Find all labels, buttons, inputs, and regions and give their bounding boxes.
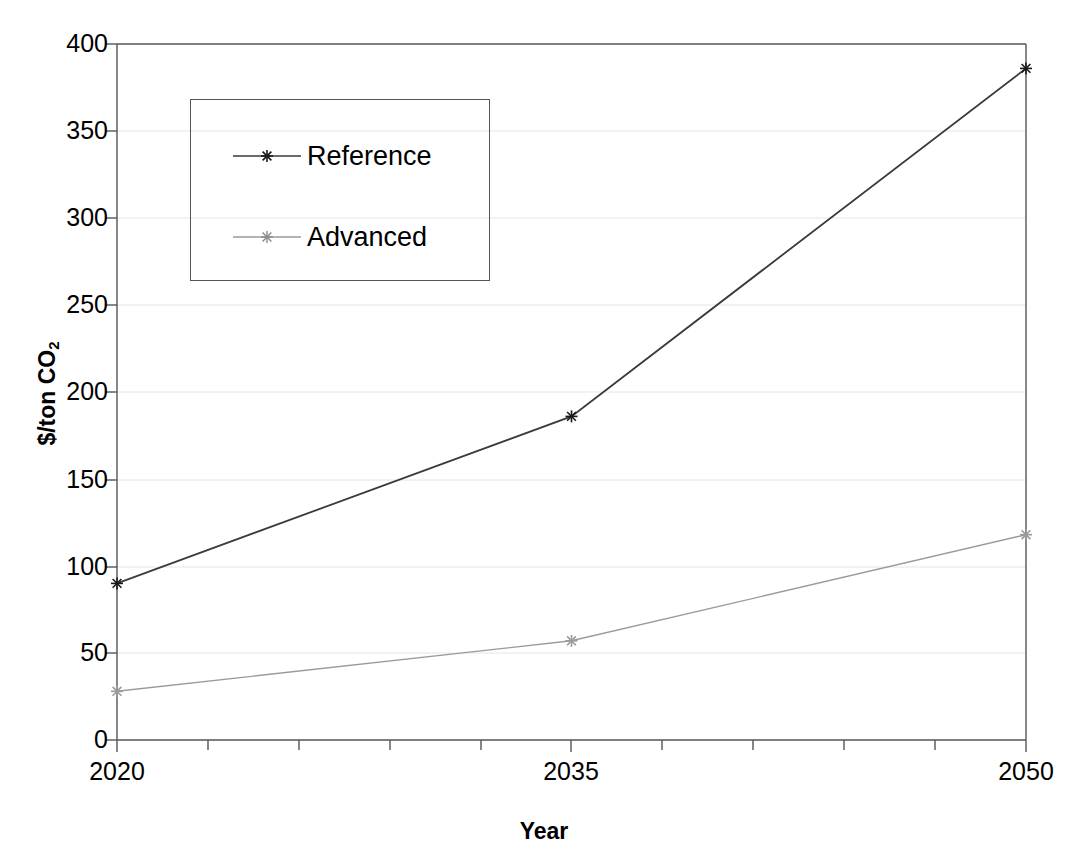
y-axis-title: $/ton CO2 [34, 314, 61, 474]
asterisk-marker-icon [231, 136, 303, 176]
x-tick-2035: 2035 [501, 757, 641, 786]
x-axis-ticks [117, 740, 1026, 752]
series-markers-advanced [111, 529, 1032, 698]
asterisk-marker-icon [231, 217, 303, 257]
x-axis-title: Year [0, 818, 1088, 845]
y-axis-title-subscript: 2 [45, 341, 62, 349]
plot-canvas [0, 0, 1088, 867]
legend: Reference Advanced [190, 99, 490, 281]
x-tick-2050: 2050 [956, 757, 1088, 786]
line-chart: 400 350 300 250 200 150 100 50 0 2020 20… [0, 0, 1088, 867]
y-axis-title-text: $/ton CO [34, 350, 60, 446]
legend-label-reference: Reference [307, 141, 432, 171]
legend-item-reference: Reference [191, 136, 491, 176]
legend-label-advanced: Advanced [307, 222, 427, 252]
series-line-advanced [117, 535, 1026, 692]
x-tick-2020: 2020 [47, 757, 187, 786]
legend-item-advanced: Advanced [191, 217, 491, 257]
